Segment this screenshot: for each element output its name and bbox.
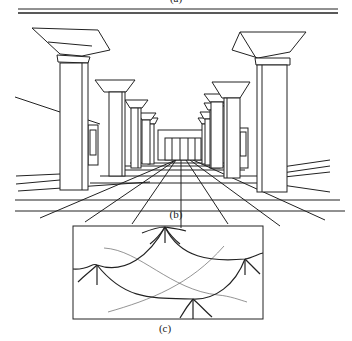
figure-canvas (0, 0, 352, 341)
panel-c-canopy (73, 226, 263, 319)
panel-b-colonnade (15, 28, 345, 228)
top-rule (18, 9, 338, 13)
left-column-mid (95, 80, 135, 176)
left-column-near (32, 28, 110, 190)
end-building (158, 130, 208, 160)
caption-b: (b) (156, 208, 196, 220)
caption-c: (c) (145, 322, 185, 334)
